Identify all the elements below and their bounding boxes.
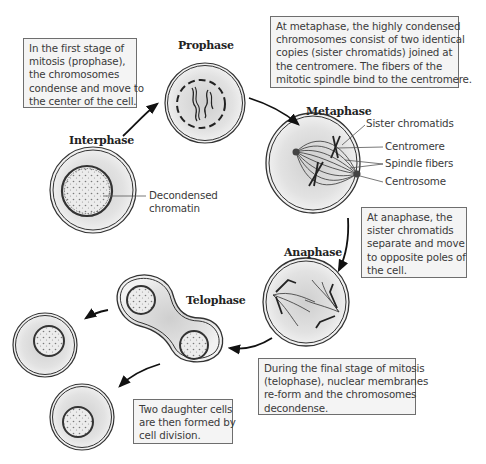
arrow-metaphase-to-anaphase (339, 218, 348, 270)
stage-label-telophase: Telophase (186, 294, 246, 307)
box-line: chromosomes consist of two identical (276, 33, 453, 46)
box-line: In the first stage of (29, 42, 131, 55)
box-line: condense and move to (29, 82, 131, 95)
stage-label-anaphase: Anaphase (284, 246, 342, 259)
box-line: During the final stage of mitosis (264, 362, 410, 375)
anaphase-description-box: At anaphase, the sister chromatids separ… (361, 207, 467, 278)
box-line: sister chromatids (367, 224, 461, 237)
telophase-description-box: During the final stage of mitosis (telop… (258, 358, 416, 415)
arrow-anaphase-to-telophase (230, 338, 272, 349)
arrow-telophase-to-daughter-1 (86, 310, 108, 318)
callout-centrosome: Centrosome (385, 175, 446, 188)
stage-label-interphase: Interphase (69, 134, 134, 147)
box-line: the cell. (367, 264, 461, 277)
box-line: to opposite poles of (367, 251, 461, 264)
telophase-cell (117, 275, 223, 362)
metaphase-description-box: At metaphase, the highly condensed chrom… (270, 16, 459, 88)
box-line: (telophase), nuclear membranes (264, 375, 410, 388)
callout-line: chromatin (149, 202, 218, 215)
box-line: copies (sister chromatids) joined at (276, 46, 453, 59)
box-line: Two daughter cells (139, 403, 227, 416)
box-line: cell division. (139, 429, 227, 442)
anaphase-cell (263, 258, 349, 346)
box-line: separate and move (367, 237, 461, 250)
box-line: At metaphase, the highly condensed (276, 20, 453, 33)
prophase-description-box: In the first stage of mitosis (prophase)… (23, 38, 137, 108)
daughter-cell-1 (13, 313, 77, 377)
stage-label-prophase: Prophase (178, 39, 234, 52)
callout-decondensed-chromatin: Decondensed chromatin (149, 189, 218, 215)
box-line: the chromosomes (29, 68, 131, 81)
arrow-interphase-to-prophase (123, 104, 157, 136)
box-line: mitosis (prophase), (29, 55, 131, 68)
box-line: the center of the cell. (29, 95, 131, 108)
box-line: the centromere. The fibers of the (276, 60, 453, 73)
daughter-cells-description-box: Two daughter cells are then formed by ce… (133, 399, 233, 444)
callout-spindle-fibers: Spindle fibers (385, 157, 453, 170)
box-line: are then formed by (139, 416, 227, 429)
callout-sister-chromatids: Sister chromatids (366, 117, 454, 130)
box-line: mitotic spindle bind to the centromere. (276, 73, 453, 86)
prophase-cell (165, 63, 245, 143)
arrow-telophase-to-daughter-2 (120, 364, 160, 386)
box-line: At anaphase, the (367, 211, 461, 224)
daughter-cell-2 (50, 384, 114, 450)
box-line: re-form and the chromosomes (264, 388, 410, 401)
stage-label-metaphase: Metaphase (306, 105, 372, 118)
callout-centromere: Centromere (385, 140, 445, 153)
box-line: decondense. (264, 402, 410, 415)
callout-line: Decondensed (149, 189, 218, 202)
interphase-cell (50, 147, 146, 233)
